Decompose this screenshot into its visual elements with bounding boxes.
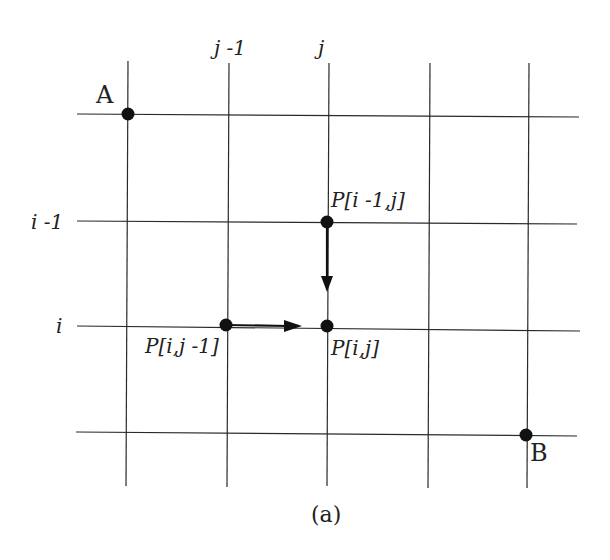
arrow-right-head-icon [284, 320, 302, 332]
point-label-p-i-j: P[i,j] [330, 336, 379, 360]
column-label-j-minus-1: j -1 [210, 36, 246, 60]
row-label-i-minus-1: i -1 [31, 210, 63, 234]
point-a [122, 108, 135, 121]
point-label-p-i-j-minus-1: P[i,j -1] [144, 334, 219, 358]
column-label-j: j [314, 36, 324, 60]
col-line-4 [527, 63, 529, 488]
dtw-grid-diagram: j -1 j i -1 i A B P[i -1,j] P[i,j -1] P[… [0, 0, 610, 560]
arrow-right-shaft [226, 325, 288, 326]
point-p-i-j [321, 320, 334, 333]
point-p-i-minus-1-j [321, 216, 334, 229]
arrow-right [226, 320, 302, 332]
figure-caption: (a) [311, 502, 341, 527]
col-line-j-minus-1 [227, 63, 229, 487]
col-line-3 [428, 63, 430, 488]
point-label-a: A [95, 81, 114, 109]
col-line-0 [126, 61, 128, 486]
row-label-i: i [56, 314, 62, 338]
row-line-3 [76, 432, 577, 436]
arrow-down [321, 222, 333, 292]
point-label-b: B [530, 439, 548, 467]
row-line-0 [77, 114, 579, 117]
point-label-p-i-minus-1-j: P[i -1,j] [330, 188, 405, 212]
arrow-down-head-icon [321, 276, 333, 292]
point-p-i-j-minus-1 [220, 319, 233, 332]
